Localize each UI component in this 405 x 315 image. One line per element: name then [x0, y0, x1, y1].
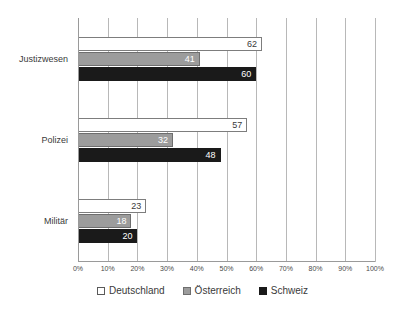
y-axis-category-label: Militär	[44, 217, 68, 226]
x-axis-tick-label: 20%	[130, 265, 144, 272]
y-axis-category-labels: JustizwesenPolizeiMilitär	[0, 18, 74, 262]
x-axis-tick-label: 90%	[338, 265, 352, 272]
plot-frame	[78, 18, 375, 262]
x-axis-tick-label: 100%	[366, 265, 384, 272]
bar-chart: JustizwesenPolizeiMilitär 62416057324823…	[0, 0, 405, 315]
x-axis-tick-labels: 0%10%20%30%40%50%60%70%80%90%100%	[78, 265, 375, 277]
plot-area: 624160573248231820	[78, 18, 375, 262]
x-axis-tick-label: 10%	[101, 265, 115, 272]
legend-swatch-icon	[259, 287, 267, 295]
legend-label: Österreich	[195, 286, 241, 296]
legend-label: Deutschland	[109, 286, 165, 296]
legend-swatch-icon	[97, 287, 105, 295]
legend-item[interactable]: Österreich	[183, 286, 241, 296]
x-axis-tick-label: 80%	[309, 265, 323, 272]
y-axis-category-label: Justizwesen	[19, 54, 68, 63]
x-axis-tick-label: 50%	[219, 265, 233, 272]
legend-item[interactable]: Schweiz	[259, 286, 308, 296]
y-axis-category-label: Polizei	[41, 136, 68, 145]
legend-item[interactable]: Deutschland	[97, 286, 165, 296]
x-axis-tick-label: 30%	[160, 265, 174, 272]
x-axis-tick-label: 0%	[73, 265, 83, 272]
gridline	[375, 18, 376, 262]
legend-label: Schweiz	[271, 286, 308, 296]
chart-legend: DeutschlandÖsterreichSchweiz	[0, 286, 405, 296]
x-axis-tick-label: 60%	[249, 265, 263, 272]
x-axis-tick-label: 70%	[279, 265, 293, 272]
legend-swatch-icon	[183, 287, 191, 295]
x-axis-tick-label: 40%	[190, 265, 204, 272]
